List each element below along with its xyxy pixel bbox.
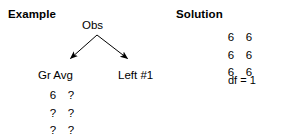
solution-cell: 6 xyxy=(222,50,240,62)
example-cell: 6 xyxy=(44,90,62,102)
solution-value-grid: 6 6 6 6 6 6 xyxy=(222,32,258,79)
example-cell: ? xyxy=(62,108,80,120)
branch-line-right xyxy=(97,35,128,59)
branch-line-left xyxy=(71,35,98,59)
example-value-grid: 6 ? ? ? ? ? xyxy=(44,90,80,137)
diagram-canvas: Example Obs Gr Avg Left #1 6 ? ? ? ? ? S… xyxy=(0,0,281,138)
tree-leaf-left-1: Left #1 xyxy=(118,70,153,82)
example-cell: ? xyxy=(62,90,80,102)
example-cell: ? xyxy=(44,108,62,120)
example-cell: ? xyxy=(44,125,62,137)
solution-cell: 6 xyxy=(240,32,258,44)
example-cell: ? xyxy=(62,125,80,137)
tree-leaf-gr-avg: Gr Avg xyxy=(38,70,73,82)
solution-heading: Solution xyxy=(176,9,223,21)
solution-cell: 6 xyxy=(222,32,240,44)
solution-df-label: df = 1 xyxy=(228,75,256,86)
example-heading: Example xyxy=(8,9,56,21)
solution-cell: 6 xyxy=(240,50,258,62)
tree-root-node-obs: Obs xyxy=(82,20,103,32)
